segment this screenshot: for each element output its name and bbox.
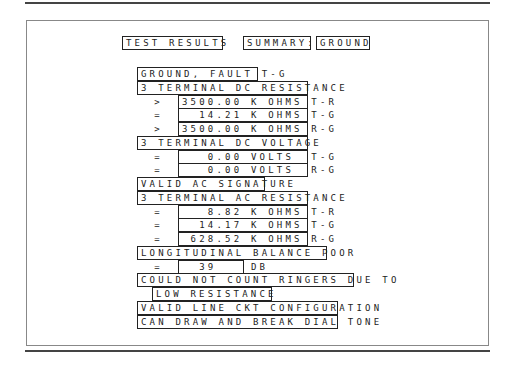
bottom-rule <box>25 350 490 352</box>
group-connector <box>178 150 179 178</box>
summary-label: SUMMARY: <box>247 38 316 48</box>
measurement-value: 14.17 K OHMS T-G <box>182 220 337 230</box>
comparison-symbol: = <box>137 150 177 164</box>
measurement-row: 628.52 K OHMS R-G <box>178 232 308 246</box>
measurement-value: 14.21 K OHMS T-G <box>182 110 337 120</box>
heading-text: LONGITUDINAL BALANCE POOR <box>141 248 356 258</box>
section-subheading: LOW RESISTANCE <box>152 287 272 301</box>
heading-text: GROUND, FAULT T-G <box>141 69 288 79</box>
summary-value-box: GROUND <box>316 36 370 50</box>
measurement-row: 0.00 VOLTS R-G <box>178 163 308 177</box>
section-heading: VALID LINE CKT CONFIGURATION <box>137 301 338 315</box>
section-heading: COULD NOT COUNT RINGERS DUE TO <box>137 273 354 287</box>
summary-label-box: SUMMARY: <box>243 36 311 50</box>
group-connector <box>178 95 179 136</box>
indent-connector <box>152 287 153 301</box>
heading-text: 3 TERMINAL DC RESISTANCE <box>141 83 348 93</box>
subheading-text: LOW RESISTANCE <box>156 289 277 299</box>
title: TEST RESULTS <box>126 38 229 48</box>
heading-text: VALID AC SIGNATURE <box>141 179 296 189</box>
comparison-symbol: = <box>137 108 177 122</box>
section-heading: VALID AC SIGNATURE <box>137 177 265 191</box>
measurement-value: 3500.00 K OHMS T-R <box>182 97 337 107</box>
measurement-value: 0.00 VOLTS T-G <box>182 152 337 162</box>
comparison-symbol: = <box>137 163 177 177</box>
measurement-value: 0.00 VOLTS R-G <box>182 165 337 175</box>
comparison-symbol: = <box>137 232 177 246</box>
section-heading: 3 TERMINAL DC RESISTANCE <box>137 81 308 95</box>
measurement-value: 3500.00 K OHMS R-G <box>182 124 337 134</box>
comparison-symbol: > <box>137 122 177 136</box>
measurement-row: 8.82 K OHMS T-R <box>178 205 308 219</box>
section-heading: 3 TERMINAL AC RESISTANCE <box>137 191 308 205</box>
measurement-row: 3500.00 K OHMS T-R <box>178 95 308 109</box>
section-heading: GROUND, FAULT T-G <box>137 67 258 81</box>
heading-text: CAN DRAW AND BREAK DIAL TONE <box>141 317 382 327</box>
heading-text: 3 TERMINAL AC RESISTANCE <box>141 193 348 203</box>
comparison-symbol: > <box>137 95 177 109</box>
section-heading: LONGITUDINAL BALANCE POOR <box>137 246 327 260</box>
measurement-row: 3500.00 K OHMS R-G <box>178 122 308 136</box>
measurement-row: 14.17 K OHMS T-G <box>178 218 308 232</box>
measurement-value: 39 DB <box>182 262 268 272</box>
heading-text: 3 TERMINAL DC VOLTAGE <box>141 138 322 148</box>
measurement-value: 8.82 K OHMS T-R <box>182 207 337 217</box>
top-rule <box>25 2 490 4</box>
summary-value: GROUND <box>320 38 372 48</box>
heading-text: VALID LINE CKT CONFIGURATION <box>141 303 382 313</box>
measurement-value: 628.52 K OHMS R-G <box>182 234 337 244</box>
comparison-symbol: = <box>137 260 177 274</box>
comparison-symbol: = <box>137 218 177 232</box>
measurement-row: 14.21 K OHMS T-G <box>178 108 308 122</box>
measurement-row: 39 DB <box>178 260 244 274</box>
comparison-symbol: = <box>137 205 177 219</box>
measurement-row: 0.00 VOLTS T-G <box>178 150 308 164</box>
section-heading: 3 TERMINAL DC VOLTAGE <box>137 136 308 150</box>
title-box: TEST RESULTS <box>122 36 223 50</box>
group-connector <box>178 260 179 274</box>
group-connector <box>178 205 179 246</box>
section-heading: CAN DRAW AND BREAK DIAL TONE <box>137 315 338 329</box>
heading-text: COULD NOT COUNT RINGERS DUE TO <box>141 275 400 285</box>
